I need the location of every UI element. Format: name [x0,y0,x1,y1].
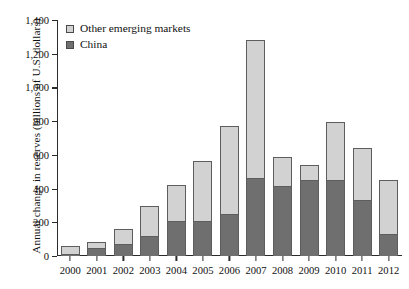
x-tick-mark-2010 [335,256,336,261]
y-tick-label: 1,200 [25,48,49,59]
bar-segment-china-2007[interactable] [246,178,265,256]
bar-column-2001[interactable]: 2001 [87,20,106,256]
legend-swatch-other-emerging-markets [66,25,74,33]
bar-segment-other-emerging-markets-2008[interactable] [273,157,292,186]
x-tick-label-2000: 2000 [60,265,81,276]
bar-column-2012[interactable]: 2012 [379,20,398,256]
y-tick-label: 1,000 [25,82,49,93]
bar-segment-other-emerging-markets-2000[interactable] [61,246,80,254]
x-tick-label-2012: 2012 [378,265,399,276]
x-tick-label-2001: 2001 [86,265,107,276]
x-tick-mark-2004 [176,256,177,261]
y-tick-label: 600 [33,149,49,160]
x-tick-label-2006: 2006 [219,265,240,276]
x-tick-mark-2005 [202,256,203,261]
bar-column-2005[interactable]: 2005 [193,20,212,256]
bar-column-2002[interactable]: 2002 [114,20,133,256]
bar-segment-china-2001[interactable] [87,248,106,256]
bar-column-2009[interactable]: 2009 [300,20,319,256]
y-tick-mark [52,256,57,257]
bar-column-2004[interactable]: 2004 [167,20,186,256]
y-tick-label: 0 [44,251,49,262]
x-tick-label-2003: 2003 [139,265,160,276]
bar-segment-other-emerging-markets-2007[interactable] [246,40,265,178]
bar-segment-other-emerging-markets-2002[interactable] [114,229,133,243]
x-tick-mark-2001 [96,256,97,261]
bar-column-2007[interactable]: 2007 [246,20,265,256]
bar-column-2011[interactable]: 2011 [353,20,372,256]
bar-segment-china-2003[interactable] [140,236,159,256]
bar-segment-china-2006[interactable] [220,214,239,256]
legend-item-other-emerging-markets: Other emerging markets [66,22,191,36]
x-tick-label-2005: 2005 [192,265,213,276]
legend-swatch-china [66,41,74,49]
x-tick-mark-2008 [282,256,283,261]
bar-segment-china-2010[interactable] [326,180,345,256]
x-tick-label-2011: 2011 [352,265,373,276]
y-tick-label: 800 [33,116,49,127]
x-tick-mark-2000 [70,256,71,261]
chart-figure: Annual change in reserves (billions of U… [0,0,409,289]
x-tick-mark-2011 [362,256,363,261]
y-tick-label: 200 [33,217,49,228]
bar-column-2000[interactable]: 2000 [61,20,80,256]
bar-segment-china-2009[interactable] [300,180,319,256]
bar-series-group: 2000200120022003200420052006200720082009… [57,20,402,256]
bar-column-2003[interactable]: 2003 [140,20,159,256]
bar-column-2008[interactable]: 2008 [273,20,292,256]
x-tick-label-2008: 2008 [272,265,293,276]
bar-segment-china-2004[interactable] [167,221,186,256]
legend-label-other-emerging-markets: Other emerging markets [80,22,191,36]
bar-segment-china-2002[interactable] [114,244,133,256]
bar-segment-china-2005[interactable] [193,221,212,256]
x-tick-label-2009: 2009 [298,265,319,276]
x-tick-mark-2002 [123,256,124,261]
x-tick-mark-2003 [149,256,150,261]
x-tick-label-2010: 2010 [325,265,346,276]
y-tick-label: 400 [33,183,49,194]
legend-label-china: China [80,38,107,52]
x-tick-mark-2006 [229,256,230,261]
bar-segment-china-2008[interactable] [273,186,292,256]
bar-segment-other-emerging-markets-2011[interactable] [353,148,372,199]
x-tick-mark-2007 [255,256,256,261]
bar-column-2010[interactable]: 2010 [326,20,345,256]
x-tick-label-2002: 2002 [113,265,134,276]
bar-segment-other-emerging-markets-2005[interactable] [193,161,212,221]
legend-item-china: China [66,38,191,52]
bar-segment-other-emerging-markets-2012[interactable] [379,180,398,234]
bar-segment-china-2012[interactable] [379,234,398,256]
bar-segment-other-emerging-markets-2006[interactable] [220,126,239,214]
x-tick-label-2007: 2007 [245,265,266,276]
bar-column-2006[interactable]: 2006 [220,20,239,256]
chart-legend: Other emerging markets China [66,22,191,54]
bar-segment-other-emerging-markets-2009[interactable] [300,165,319,179]
bar-segment-china-2011[interactable] [353,200,372,256]
x-tick-mark-2012 [388,256,389,261]
y-tick-label: 1,400 [25,15,49,26]
x-tick-mark-2009 [308,256,309,261]
bar-segment-other-emerging-markets-2004[interactable] [167,185,186,222]
x-tick-label-2004: 2004 [166,265,187,276]
bar-segment-other-emerging-markets-2003[interactable] [140,206,159,236]
plot-area: 02004006008001,0001,2001,400 20002001200… [57,20,402,256]
bar-segment-other-emerging-markets-2010[interactable] [326,122,345,180]
